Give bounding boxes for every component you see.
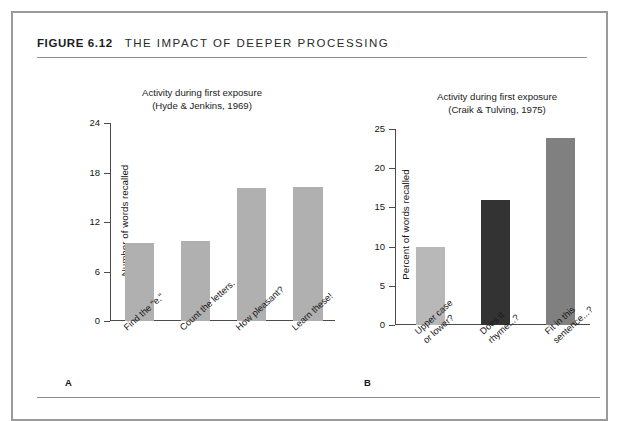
- y-tick: 24: [104, 123, 110, 124]
- y-tick-label: 6: [95, 266, 100, 277]
- y-tick: 12: [104, 222, 110, 223]
- chart-a-subtitle-line1: Activity during first exposure: [69, 87, 335, 100]
- y-tick-label: 0: [380, 319, 385, 330]
- y-tick-label: 0: [95, 315, 100, 326]
- chart-panel-a: Activity during first exposure (Hyde & J…: [13, 13, 343, 419]
- y-tick: 20: [389, 168, 395, 169]
- y-tick-label: 10: [374, 241, 385, 252]
- bar: [546, 138, 575, 325]
- y-tick-label: 25: [374, 123, 385, 134]
- panel-letter-a: A: [65, 377, 72, 388]
- chart-b-subtitle-line2: (Craik & Tulving, 1975): [371, 104, 622, 117]
- y-tick: 0: [104, 321, 110, 322]
- y-tick: 6: [104, 272, 110, 273]
- y-tick-label: 15: [374, 201, 385, 212]
- y-tick: 0: [389, 325, 395, 326]
- y-tick-label: 18: [89, 167, 100, 178]
- panel-letter-b: B: [364, 377, 371, 388]
- chart-b-subtitle-line1: Activity during first exposure: [371, 91, 622, 104]
- y-tick: 15: [389, 207, 395, 208]
- y-tick: 10: [389, 247, 395, 248]
- y-tick-label: 5: [380, 280, 385, 291]
- y-tick: 25: [389, 129, 395, 130]
- y-tick: 18: [104, 173, 110, 174]
- chart-a-subtitle: Activity during first exposure (Hyde & J…: [69, 87, 335, 112]
- chart-a-subtitle-line2: (Hyde & Jenkins, 1969): [69, 100, 335, 113]
- footer-divider: [37, 397, 600, 398]
- figure-frame: FIGURE 6.12THE IMPACT OF DEEPER PROCESSI…: [11, 11, 608, 421]
- chart-b-plot-area: Percent of words recalled 0510152025 Upp…: [395, 129, 590, 325]
- chart-b-subtitle: Activity during first exposure (Craik & …: [371, 91, 622, 116]
- chart-panel-b: Activity during first exposure (Craik & …: [343, 13, 622, 419]
- y-tick-label: 20: [374, 162, 385, 173]
- chart-a-plot-area: Number of words recalled 06121824 Find t…: [110, 123, 335, 321]
- y-tick-label: 24: [89, 117, 100, 128]
- y-tick-label: 12: [89, 216, 100, 227]
- y-tick: 5: [389, 286, 395, 287]
- chart-b-bars: [396, 129, 590, 325]
